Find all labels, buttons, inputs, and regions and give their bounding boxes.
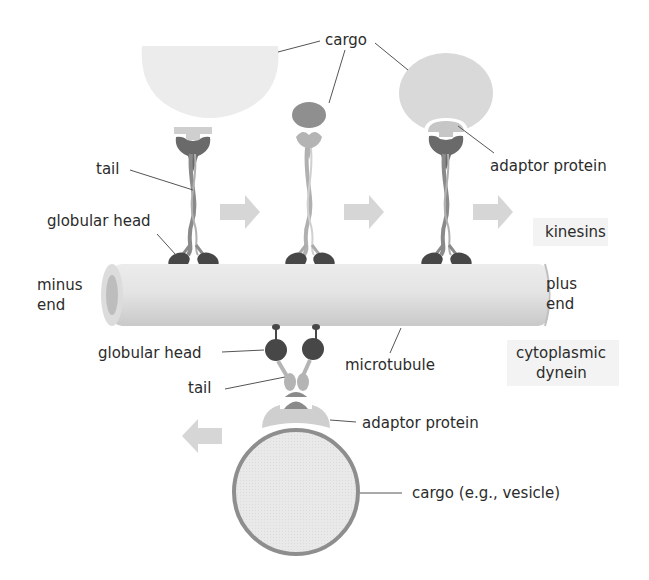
vesicle-cargo bbox=[234, 430, 358, 554]
label-plus-end-1: plus bbox=[546, 275, 577, 293]
kinesin-middle bbox=[283, 132, 337, 272]
label-adaptor-protein-top: adaptor protein bbox=[490, 157, 607, 175]
label-microtubule: microtubule bbox=[345, 356, 435, 374]
label-adaptor-protein-bottom: adaptor protein bbox=[362, 414, 479, 432]
arrow-right-icon bbox=[344, 195, 384, 229]
label-tail-bottom: tail bbox=[188, 379, 211, 397]
cytoplasmic-dynein bbox=[262, 324, 330, 428]
kinesin-right bbox=[419, 131, 474, 272]
adaptor-protein-left bbox=[174, 127, 212, 134]
kinesin-left bbox=[166, 127, 221, 272]
label-kinesins: kinesins bbox=[545, 223, 606, 241]
arrow-right-icon bbox=[473, 195, 513, 229]
arrow-right-icon bbox=[220, 195, 260, 229]
dynein-globular-head-icon bbox=[302, 338, 324, 360]
label-globular-head-bottom: globular head bbox=[98, 344, 202, 362]
label-cargo-bottom: cargo (e.g., vesicle) bbox=[412, 484, 560, 502]
arrow-left-icon bbox=[182, 419, 222, 453]
label-minus-end-2: end bbox=[37, 296, 65, 314]
label-plus-end-2: end bbox=[546, 295, 574, 313]
label-minus-end-1: minus bbox=[37, 276, 83, 294]
label-globular-head-top: globular head bbox=[47, 212, 151, 230]
label-tail-top: tail bbox=[96, 160, 119, 178]
label-cargo-top: cargo bbox=[325, 31, 367, 49]
cargo-small-oval bbox=[292, 102, 326, 128]
motor-protein-diagram: cargo tail globular head adaptor protein… bbox=[0, 0, 649, 580]
dynein-globular-head-icon bbox=[265, 339, 287, 361]
microtubule-cylinder bbox=[101, 264, 550, 326]
label-cytoplasmic-dynein-2: dynein bbox=[536, 364, 587, 382]
cargo-large-hemisphere bbox=[142, 46, 279, 118]
label-cytoplasmic-dynein-1: cytoplasmic bbox=[516, 344, 606, 362]
